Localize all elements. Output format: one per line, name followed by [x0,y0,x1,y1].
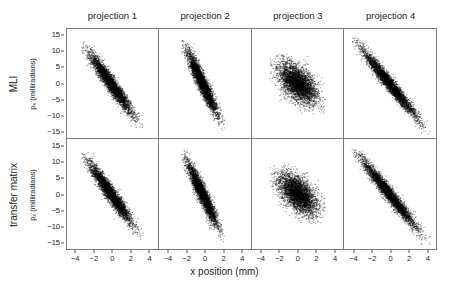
y-tick-label: 15 [52,142,60,150]
x-tick-mark [130,250,131,253]
y-tick-mark [61,161,64,162]
scatter-panel[interactable] [159,29,251,139]
scatter-points [182,151,225,241]
scatter-canvas [159,139,250,249]
x-axis-label: x position (mm) [0,266,449,277]
y-tick-mark [61,67,64,68]
scatter-canvas [344,29,436,138]
y-tick-label: −10 [47,112,60,120]
x-axis-group: −4−2024 [159,250,252,266]
x-tick-label: 4 [147,255,151,263]
scatter-canvas [67,139,158,249]
x-tick-label: −2 [182,255,191,263]
y-tick-label: −5 [51,96,60,104]
figure-root: projection 1 projection 2 projection 3 p… [0,0,449,288]
scatter-points [182,41,225,131]
scatter-canvas [344,139,436,249]
x-tick-mark [242,250,243,253]
scatter-points [269,54,325,113]
scatter-points [352,37,430,134]
y-tick-label: 5 [56,174,60,182]
scatter-points [82,42,143,128]
x-tick-mark [353,250,354,253]
x-tick-label: 2 [314,255,318,263]
scatter-points [269,164,325,223]
y-axis-label-bottom: px (milliradians) [27,135,39,255]
y-tick-mark [61,34,64,35]
scatter-panel[interactable] [344,29,436,139]
x-tick-label: −4 [71,255,80,263]
x-tick-mark [260,250,261,253]
x-tick-mark [168,250,169,253]
x-tick-label: 2 [129,255,133,263]
y-tick-mark [61,83,64,84]
scatter-points [352,150,430,245]
x-tick-label: −4 [164,255,173,263]
scatter-panel[interactable] [67,29,159,139]
scatter-canvas [159,29,250,138]
x-tick-label: 4 [240,255,244,263]
y-tick-mark [61,145,64,146]
y-tick-label: −15 [47,129,60,137]
x-axis: −4−2024−4−2024−4−2024−4−2024 [66,250,437,266]
x-tick-mark [372,250,373,253]
y-tick-mark [61,243,64,244]
x-tick-mark [93,250,94,253]
scatter-panel[interactable] [159,139,251,249]
y-axis-units-bottom: (milliradians) [28,169,37,212]
row-label-transfer-matrix: transfer matrix [7,135,21,255]
scatter-panel[interactable] [252,29,344,139]
y-tick-label: −15 [47,240,60,248]
y-tick-label: 5 [56,63,60,71]
x-tick-label: −2 [368,255,377,263]
scatter-panel[interactable] [252,139,344,249]
x-tick-label: 0 [203,255,207,263]
y-tick-mark [61,132,64,133]
column-header-projection-4: projection 4 [331,10,449,21]
x-tick-mark [316,250,317,253]
scatter-panel[interactable] [344,139,436,249]
y-tick-mark [61,178,64,179]
y-tick-label: −5 [51,207,60,215]
x-tick-mark [149,250,150,253]
y-axis-subscript-bottom: x [31,213,37,216]
x-tick-mark [186,250,187,253]
x-tick-label: 0 [389,255,393,263]
y-axis-units-top: (milliradians) [28,58,37,101]
y-tick-label: 10 [52,47,60,55]
x-axis-group: −4−2024 [252,250,345,266]
x-tick-label: 2 [222,255,226,263]
y-tick-label: 0 [56,80,60,88]
scatter-canvas [252,139,343,249]
x-tick-label: 2 [407,255,411,263]
y-tick-mark [61,99,64,100]
scatter-panel[interactable] [67,139,159,249]
x-tick-mark [223,250,224,253]
scatter-canvas [252,29,343,138]
x-tick-mark [279,250,280,253]
x-tick-label: −2 [90,255,99,263]
x-tick-label: −2 [275,255,284,263]
y-tick-mark [61,116,64,117]
y-axis-top-row: 151050−5−10−15 [40,28,64,139]
x-tick-label: 4 [426,255,430,263]
y-axis-subscript-top: x [31,102,37,105]
x-tick-label: −4 [349,255,358,263]
x-tick-label: 0 [296,255,300,263]
scatter-canvas [67,29,158,138]
scatter-points [82,152,143,239]
x-tick-label: 0 [110,255,114,263]
y-axis-bottom-row: 151050−5−10−15 [40,139,64,250]
x-axis-group: −4−2024 [66,250,159,266]
y-tick-label: −10 [47,223,60,231]
x-tick-label: −4 [256,255,265,263]
y-tick-mark [61,50,64,51]
y-tick-label: 10 [52,158,60,166]
x-tick-mark [75,250,76,253]
x-tick-mark [205,250,206,253]
y-axis-label-top: px (milliradians) [27,24,39,144]
x-tick-label: 4 [333,255,337,263]
y-tick-label: 0 [56,191,60,199]
x-tick-mark [409,250,410,253]
row-label-mli: MLI [7,24,21,144]
